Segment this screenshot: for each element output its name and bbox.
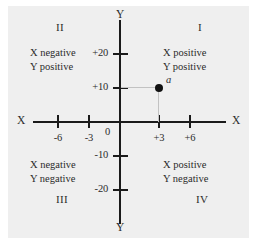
y-tick-label-plus-10: +10 [76, 81, 108, 92]
quadrant-numeral-ii: II [56, 21, 64, 33]
x-tick-label-minus-6: -6 [44, 132, 72, 143]
x-tick-label-plus-6: +6 [176, 132, 204, 143]
point-a-vertical-guide [158, 90, 159, 122]
quadrant-iv-description: X positive Y negative [163, 158, 208, 185]
x-axis-label-right: X [232, 114, 240, 126]
quadrant-iv-line-1: X positive [163, 158, 208, 172]
y-tick-minus-10 [113, 155, 128, 157]
quadrant-ii-line-2: Y positive [30, 60, 76, 74]
x-axis-line [33, 121, 226, 123]
quadrant-iii-description: X negative Y negative [30, 158, 76, 185]
quadrant-i-description: X positive Y positive [163, 46, 206, 73]
quadrant-numeral-iii: III [56, 193, 68, 205]
origin-label: 0 [105, 126, 110, 137]
y-axis-label-bottom: Y [116, 221, 124, 233]
quadrant-i-line-2: Y positive [163, 60, 206, 74]
x-tick-label-minus-3: -3 [75, 132, 103, 143]
x-tick-minus-3 [88, 115, 90, 128]
x-tick-label-plus-3: +3 [145, 132, 173, 143]
quadrant-ii-description: X negative Y positive [30, 46, 76, 73]
quadrant-numeral-iv: IV [196, 193, 208, 205]
x-axis-label-left: X [17, 114, 25, 126]
plotted-point-a [155, 84, 163, 92]
y-axis-line [119, 20, 121, 224]
quadrant-iv-line-2: Y negative [163, 172, 208, 186]
y-tick-label-minus-10: -10 [76, 149, 108, 160]
y-tick-label-plus-20: +20 [76, 47, 108, 58]
x-tick-plus-6 [189, 115, 191, 128]
quadrant-iii-line-1: X negative [30, 158, 76, 172]
quadrant-iii-line-2: Y negative [30, 172, 76, 186]
y-tick-minus-20 [113, 189, 128, 191]
x-tick-minus-6 [57, 115, 59, 128]
quadrant-ii-line-1: X negative [30, 46, 76, 60]
y-axis-label-top: Y [116, 8, 124, 20]
quadrant-numeral-i: I [198, 21, 202, 33]
y-tick-plus-20 [113, 53, 128, 55]
point-a-horizontal-guide [121, 87, 157, 88]
coordinate-plane-figure: X X Y Y 0 -6 -3 +3 +6 +20 +10 -10 -20 II… [8, 6, 249, 238]
plotted-point-a-label: a [166, 74, 171, 85]
y-tick-label-minus-20: -20 [76, 183, 108, 194]
quadrant-i-line-1: X positive [163, 46, 206, 60]
